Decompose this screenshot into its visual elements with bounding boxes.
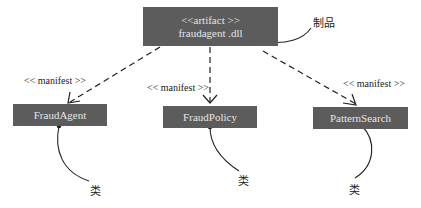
class-note-label-patternsearch: 类 bbox=[349, 181, 360, 197]
class-name: PatternSearch bbox=[330, 112, 391, 125]
artifact-node[interactable]: <<artifact >> fraudagent .dll bbox=[143, 7, 278, 46]
artifact-note-label: 制品 bbox=[313, 14, 335, 30]
manifest-label-patternsearch: << manifest >> bbox=[343, 78, 405, 89]
manifest-arrow-fraudpolicy bbox=[203, 47, 217, 103]
class-name: FraudPolicy bbox=[183, 111, 237, 124]
class-node-fraudpolicy[interactable]: FraudPolicy bbox=[163, 106, 257, 128]
diagram-canvas: <<artifact >> fraudagent .dll 制品 << mani… bbox=[0, 0, 421, 208]
fraudpolicy-note-connector bbox=[208, 125, 239, 171]
class-node-fraudagent[interactable]: FraudAgent bbox=[13, 104, 107, 126]
class-name: FraudAgent bbox=[34, 109, 87, 122]
artifact-name: fraudagent .dll bbox=[178, 27, 242, 40]
class-note-label-fraudagent: 类 bbox=[90, 182, 101, 198]
patternsearch-note-connector bbox=[355, 124, 372, 178]
manifest-label-fraudpolicy: << manifest >> bbox=[147, 82, 209, 93]
class-note-label-fraudpolicy: 类 bbox=[238, 172, 249, 188]
class-node-patternsearch[interactable]: PatternSearch bbox=[313, 107, 408, 129]
artifact-stereotype: <<artifact >> bbox=[181, 14, 240, 27]
manifest-label-fraudagent: << manifest >> bbox=[24, 75, 86, 86]
fraudagent-note-connector bbox=[57, 124, 89, 181]
